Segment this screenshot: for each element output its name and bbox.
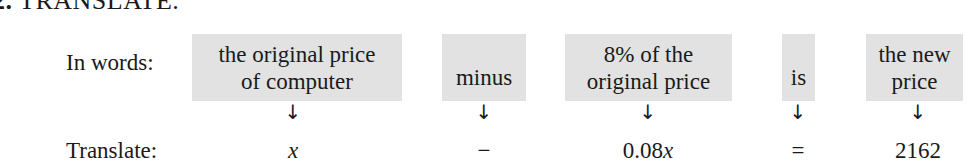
translation-eight-percent: 0.08x	[623, 138, 673, 164]
phrase-text: minus	[456, 64, 512, 91]
math-text: 0.08	[623, 138, 663, 163]
phrase-text: the original price	[218, 41, 375, 68]
translation-minus: −	[478, 138, 491, 164]
down-arrow-icon: ↓	[788, 100, 808, 124]
section-heading: 2. TRANSLATE.	[0, 0, 179, 16]
translate-label: Translate:	[66, 138, 157, 164]
down-arrow-icon: ↓	[908, 100, 928, 124]
translation-equals: =	[792, 138, 805, 164]
down-arrow-icon: ↓	[283, 100, 303, 124]
phrase-box-minus: minus	[442, 34, 526, 101]
phrase-box-original-price: the original price of computer	[192, 34, 402, 101]
phrase-text: of computer	[218, 68, 375, 95]
phrase-text: is	[791, 64, 806, 91]
phrase-text: 8% of the	[587, 41, 710, 68]
translation-new-price: 2162	[895, 138, 941, 164]
phrase-text: price	[878, 68, 950, 95]
translation-original-price: x	[288, 138, 298, 164]
phrase-box-new-price: the new price	[866, 34, 963, 101]
math-variable: x	[663, 138, 673, 163]
step-number: 2.	[0, 0, 13, 15]
down-arrow-icon: ↓	[638, 100, 658, 124]
down-arrow-icon: ↓	[474, 100, 494, 124]
math-text: −	[478, 138, 491, 163]
step-title: TRANSLATE.	[19, 0, 179, 15]
phrase-text: the new	[878, 41, 950, 68]
in-words-label: In words:	[66, 50, 154, 76]
math-text: 2162	[895, 138, 941, 163]
phrase-box-eight-percent: 8% of the original price	[565, 34, 732, 101]
phrase-text: original price	[587, 68, 710, 95]
math-variable: x	[288, 138, 298, 163]
phrase-box-is: is	[782, 34, 815, 101]
math-text: =	[792, 138, 805, 163]
